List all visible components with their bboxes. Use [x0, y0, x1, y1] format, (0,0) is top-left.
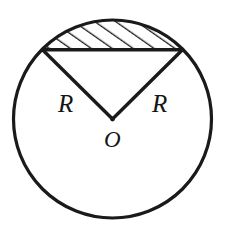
circle-segment-diagram: R R O [0, 0, 229, 236]
segment-hatch-fill [43, 21, 183, 50]
label-radius-left: R [57, 90, 73, 117]
geometry-figure: R R O [0, 0, 229, 236]
hatched-segment [43, 21, 183, 50]
radius-left-line [43, 50, 113, 119]
label-center-point: O [104, 127, 121, 152]
label-radius-right: R [151, 90, 167, 117]
radius-right-line [113, 50, 183, 119]
center-point-marker [110, 117, 115, 122]
